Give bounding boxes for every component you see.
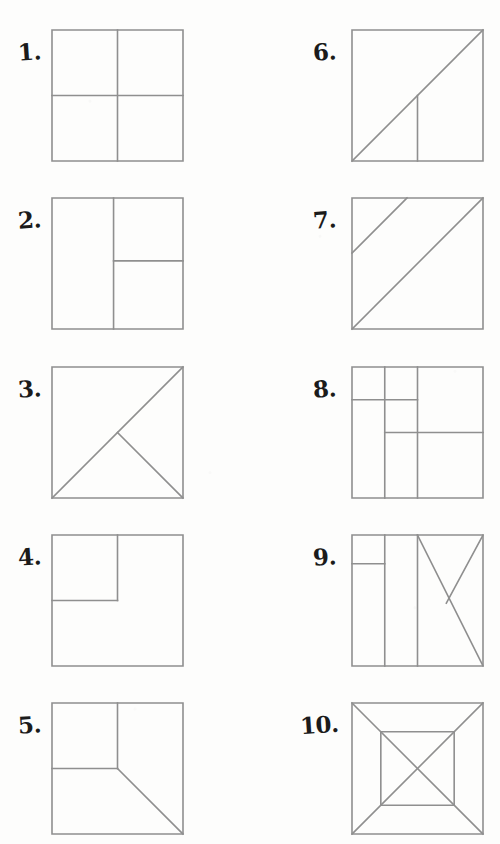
line-diagonal-descending — [418, 535, 484, 666]
figure-square-with-corner-square — [52, 535, 183, 666]
figure-square-columns-with-diagonals — [352, 535, 483, 666]
problem-square-diagonal-with-vertical: 6. — [0, 0, 500, 844]
figure-square-corner-square-and-diagonal — [52, 703, 183, 834]
problem-number-label: 10. — [299, 712, 339, 738]
problem-number-label: 2. — [17, 207, 42, 232]
problem-number-label: 7. — [312, 207, 337, 232]
outer-square-border — [52, 30, 183, 161]
problem-number-label: 9. — [312, 544, 337, 569]
problem-number-label: 5. — [17, 712, 42, 737]
problem-square-diagonal-with-triangle: 3. — [0, 0, 500, 844]
line-main-diagonal — [352, 30, 483, 161]
paper-texture — [0, 0, 500, 844]
problem-square-nested-rectangles: 8. — [0, 0, 500, 844]
problem-square-nested-square-with-x: 10. — [0, 0, 500, 844]
problem-square-with-corner-square: 4. — [0, 0, 500, 844]
line-diagonal-tl-br — [352, 703, 483, 834]
line-diagonal-ascending-short — [446, 535, 483, 603]
line-main-diagonal — [352, 198, 483, 329]
figure-square-left-half-right-split — [52, 198, 183, 329]
outer-square-border — [352, 198, 483, 329]
figure-square-two-parallel-diagonals — [352, 198, 483, 329]
problem-square-columns-with-diagonals: 9. — [0, 0, 500, 844]
outer-square-border — [52, 367, 183, 498]
outer-square-border — [352, 535, 483, 666]
line-main-diagonal — [52, 367, 183, 498]
line-parallel-diagonal — [352, 198, 407, 253]
line-center-to-bottom-right-diagonal — [118, 769, 184, 835]
problem-square-left-half-right-split: 2. — [0, 0, 500, 844]
outer-square-border — [52, 703, 183, 834]
problem-number-label: 8. — [312, 376, 337, 401]
figure-square-quartered — [52, 30, 183, 161]
outer-square-border — [352, 30, 483, 161]
line-diagonal-tr-bl — [352, 703, 483, 834]
outer-square-border — [352, 703, 483, 834]
outer-square-border — [52, 535, 183, 666]
problem-square-quartered: 1. — [0, 0, 500, 844]
figure-square-diagonal-with-triangle — [52, 367, 183, 498]
problem-number-label: 4. — [17, 544, 42, 569]
figure-square-diagonal-with-vertical — [352, 30, 483, 161]
outer-square-border — [52, 198, 183, 329]
figure-square-nested-square-with-x — [352, 703, 483, 834]
figure-square-nested-rectangles — [352, 367, 483, 498]
problem-number-label: 6. — [312, 39, 337, 64]
worksheet-page: 1.2.3.4.5.6.7.8.9.10. — [0, 0, 500, 844]
problem-number-label: 1. — [17, 39, 42, 64]
outer-square-border — [352, 367, 483, 498]
problem-square-corner-square-and-diagonal: 5. — [0, 0, 500, 844]
line-midpoint-to-corner — [118, 433, 184, 499]
problem-square-two-parallel-diagonals: 7. — [0, 0, 500, 844]
problem-number-label: 3. — [17, 376, 42, 401]
